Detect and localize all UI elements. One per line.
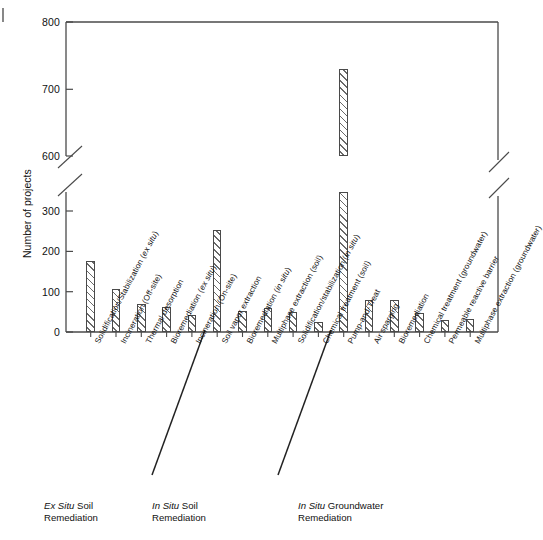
y-tick-600: 600 — [24, 150, 60, 162]
group-2-emph: In Situ — [152, 500, 179, 511]
y-tick-700: 700 — [24, 83, 60, 95]
group-2-line1: In Situ Soil — [152, 500, 198, 511]
group-2-line2: Remediation — [152, 512, 206, 523]
y-tick-0: 0 — [30, 326, 60, 338]
group-1-emph: Ex Situ — [44, 500, 74, 511]
group-1-line1: Ex Situ Soil — [44, 500, 93, 511]
group-label-ex-situ-soil: Ex Situ Soil Remediation — [44, 500, 98, 524]
y-tick-100: 100 — [24, 286, 60, 298]
group-separator-1 — [152, 330, 205, 475]
group-3-line1: In Situ Groundwater — [298, 500, 383, 511]
bar-9 — [314, 322, 323, 332]
y-tick-200: 200 — [24, 245, 60, 257]
group-1-line2: Remediation — [44, 512, 98, 523]
group-3-emph: In Situ — [298, 500, 325, 511]
group-label-in-situ-groundwater: In Situ Groundwater Remediation — [298, 500, 383, 524]
y-tick-300: 300 — [24, 205, 60, 217]
y-tick-800: 800 — [24, 16, 60, 28]
group-3-line2: Remediation — [298, 512, 352, 523]
bar-10-upper — [339, 69, 348, 156]
group-label-in-situ-soil: In Situ Soil Remediation — [152, 500, 206, 524]
group-separator-2 — [278, 330, 331, 475]
bar-0 — [86, 261, 95, 332]
